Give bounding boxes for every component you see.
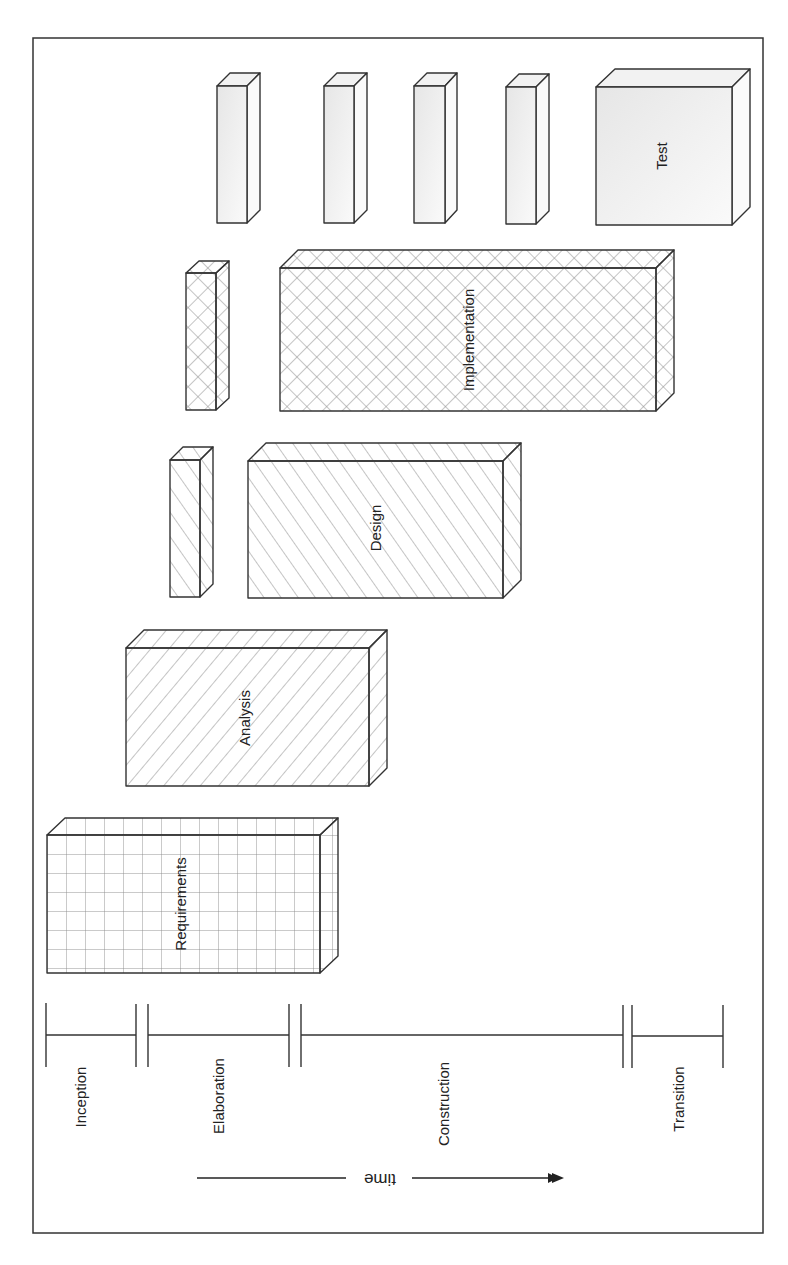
test-main-box <box>596 69 750 225</box>
time-axis-label: time <box>364 1170 396 1189</box>
workflow-label-requirements: Requirements <box>172 857 189 950</box>
design-main-box <box>248 443 521 598</box>
phase-timeline <box>46 1003 723 1068</box>
workflow-design <box>170 443 521 598</box>
workflow-test <box>217 69 750 225</box>
phase-label-transition: Transition <box>670 1066 687 1131</box>
test-iteration-bar <box>414 73 457 223</box>
test-iteration-bar <box>324 73 367 223</box>
arrowhead-icon <box>552 1173 564 1183</box>
design-iteration-bar <box>170 447 213 597</box>
workflow-analysis <box>126 630 387 786</box>
phase-label-construction: Construction <box>435 1062 452 1146</box>
implementation-iteration-bar <box>186 261 229 410</box>
workflow-implementation <box>186 250 674 411</box>
phase-label-inception: Inception <box>72 1067 89 1128</box>
test-iteration-bar <box>506 74 549 224</box>
phase-label-elaboration: Elaboration <box>210 1058 227 1134</box>
workflow-label-analysis: Analysis <box>236 690 253 746</box>
implementation-main-box <box>280 250 674 411</box>
test-iteration-bar <box>217 73 260 223</box>
workflow-requirements <box>47 818 338 973</box>
workflow-label-design: Design <box>367 505 384 552</box>
workflow-label-test: Test <box>653 141 670 169</box>
unified-process-diagram: Test Implementation Design <box>0 0 788 1265</box>
workflow-label-implementation: Implementation <box>460 289 477 392</box>
